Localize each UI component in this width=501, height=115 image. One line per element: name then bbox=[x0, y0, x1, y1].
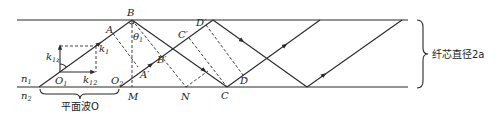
wavefront-Dprime-D bbox=[206, 25, 246, 79]
angle-arc-O1 bbox=[60, 64, 67, 67]
label-O1: O1 bbox=[55, 75, 67, 88]
label-n1: n1 bbox=[21, 73, 32, 86]
label-M: M bbox=[127, 91, 139, 102]
label-k1: k1 bbox=[99, 43, 109, 56]
core-diameter-label: 纤芯直径2a bbox=[432, 48, 485, 60]
wavefront-N bbox=[186, 71, 208, 87]
fiber-ray-diagram: B A θ1 A′ B′ C′ D′ C D M N O1 O2 k1 k1z … bbox=[0, 0, 501, 115]
label-theta1: θ1 bbox=[133, 31, 143, 44]
ray-1-arrow-down bbox=[203, 70, 204, 71]
ray-2-arrow-up bbox=[150, 65, 151, 66]
plane-wave-label: 平面波O bbox=[61, 100, 99, 112]
label-C: C bbox=[221, 90, 229, 101]
label-A: A bbox=[105, 24, 113, 35]
label-O2: O2 bbox=[111, 75, 123, 88]
core-diameter-brace bbox=[417, 20, 428, 88]
ray-2-arrow-down bbox=[241, 40, 242, 41]
ray-1-arrow-up-2 bbox=[284, 45, 285, 46]
label-n2: n2 bbox=[21, 90, 32, 103]
ray-2-arrow-up-2 bbox=[323, 75, 324, 76]
label-B-prime: B′ bbox=[156, 54, 167, 65]
label-N: N bbox=[180, 91, 191, 102]
label-A-prime: A′ bbox=[139, 69, 150, 80]
label-B: B bbox=[126, 7, 134, 18]
label-C-prime: C′ bbox=[178, 29, 189, 40]
label-D-prime: D′ bbox=[195, 17, 207, 28]
label-k1z: k1z bbox=[46, 51, 60, 64]
label-D: D bbox=[239, 75, 248, 86]
plane-wave-brace bbox=[40, 89, 119, 99]
label-k12: k12 bbox=[83, 74, 97, 87]
